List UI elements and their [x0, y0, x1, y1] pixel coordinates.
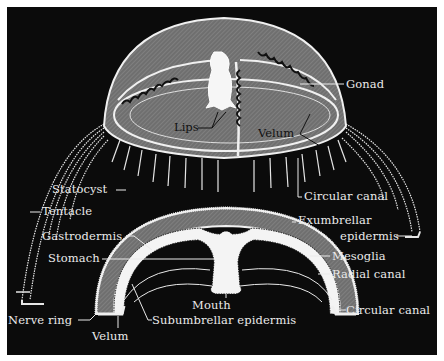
svg-text:Statocyst: Statocyst [52, 182, 108, 196]
svg-text:Radial canal: Radial canal [332, 267, 406, 281]
svg-text:Tentacle: Tentacle [42, 204, 92, 218]
svg-text:Lips: Lips [174, 120, 199, 134]
svg-text:Exumbrellar: Exumbrellar [298, 213, 372, 227]
svg-text:Circular canal: Circular canal [346, 303, 430, 317]
svg-text:Nerve ring: Nerve ring [8, 313, 73, 327]
svg-text:Mesoglia: Mesoglia [332, 249, 386, 263]
svg-text:Velum: Velum [91, 329, 129, 343]
svg-text:Mouth: Mouth [192, 298, 231, 312]
section-medusa: Gastrodermis Exumbrellar epidermis Stoma… [8, 208, 430, 343]
label-nerve-ring: Nerve ring [8, 312, 98, 327]
tentacle-tip-left [22, 300, 44, 304]
svg-text:Subumbrellar epidermis: Subumbrellar epidermis [152, 313, 296, 327]
label-mouth: Mouth [192, 294, 231, 312]
svg-text:Gastrodermis: Gastrodermis [42, 229, 122, 243]
label-circular-canal-section: Circular canal [338, 303, 430, 317]
label-circular-canal-top: Circular canal [298, 158, 388, 203]
svg-text:Velum: Velum [257, 126, 294, 140]
jellyfish-diagram: Gonad Lips Velum Statocyst Circular cana… [0, 0, 444, 361]
label-statocyst: Statocyst [52, 182, 126, 196]
svg-text:Stomach: Stomach [48, 251, 100, 265]
label-velum-section: Velum [91, 316, 129, 343]
svg-text:Circular canal: Circular canal [304, 189, 388, 203]
svg-text:Gonad: Gonad [346, 77, 385, 91]
label-radial-canal: Radial canal [318, 267, 406, 281]
svg-text:epidermis: epidermis [340, 229, 399, 243]
